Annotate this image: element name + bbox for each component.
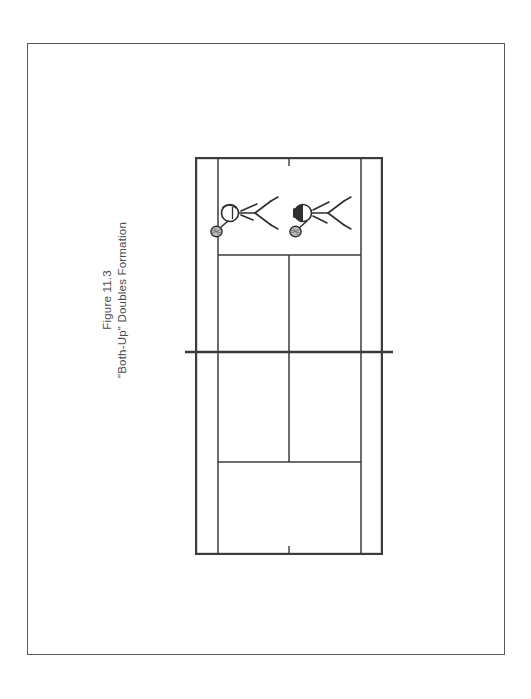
player-left-arm-lower [241, 215, 253, 220]
player-right-leg-upper [328, 201, 344, 213]
player-right-foot-upper [344, 197, 351, 201]
player-left-leg-lower [255, 213, 271, 225]
player-figures [195, 157, 383, 555]
player-left-racket-handle [220, 221, 228, 228]
player-right-arm-lower [313, 216, 327, 223]
figure-page: Figure 11.3 "Both-Up" Doubles Formation [0, 0, 531, 699]
player-right [290, 197, 351, 237]
player-left-foot-lower [271, 225, 278, 229]
player-left-foot-upper [271, 197, 278, 201]
player-left [211, 197, 278, 237]
player-right-foot-lower [344, 225, 351, 229]
player-right-leg-lower [328, 213, 344, 225]
tennis-court-diagram [195, 157, 383, 555]
player-left-leg-upper [255, 201, 271, 213]
player-left-arm-upper [241, 204, 257, 211]
player-right-arm-upper [313, 202, 329, 210]
